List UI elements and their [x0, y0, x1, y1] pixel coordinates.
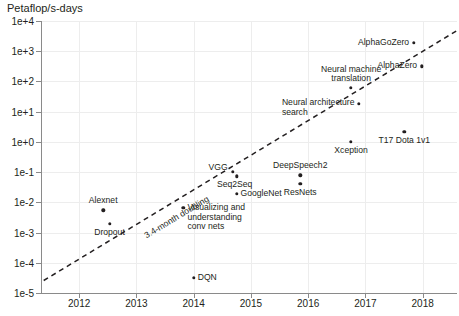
data-point [192, 276, 195, 279]
y-tick-mark [36, 293, 41, 294]
x-tick-label: 2015 [240, 298, 262, 309]
y-tick-mark [36, 112, 41, 113]
x-tick-label: 2014 [183, 298, 205, 309]
data-point [231, 170, 234, 173]
data-point-label: DQN [198, 273, 217, 283]
y-tick-mark [36, 233, 41, 234]
data-point [357, 102, 360, 105]
y-tick-label: 1e-3 [0, 227, 34, 238]
gridline-horizontal [42, 51, 457, 52]
y-tick-label: 1e+4 [0, 16, 34, 27]
data-point-label: Alexnet [89, 197, 118, 207]
data-point-label: Dropout [94, 228, 125, 238]
data-point [108, 222, 111, 225]
data-point [349, 86, 352, 89]
gridline-vertical [79, 21, 80, 293]
data-point-label: VGG [208, 163, 227, 173]
y-tick-label: 1e-4 [0, 257, 34, 268]
y-tick-label: 1e+1 [0, 106, 34, 117]
gridline-vertical [136, 21, 137, 293]
data-point [101, 208, 104, 211]
x-tick-label: 2013 [125, 298, 147, 309]
gridline-vertical [251, 21, 252, 293]
y-tick-mark [36, 202, 41, 203]
y-tick-label: 1e-2 [0, 197, 34, 208]
y-tick-mark [36, 142, 41, 143]
y-tick-label: 1e-5 [0, 288, 34, 299]
data-point [235, 175, 238, 178]
gridline-horizontal [42, 172, 457, 173]
y-tick-mark [36, 21, 41, 22]
data-point-label: GoogleNet [241, 189, 282, 199]
plot-area: AlphaGoZeroAlphaZeroNeural machine trans… [42, 21, 457, 293]
x-tick-label: 2017 [354, 298, 376, 309]
x-tick-label: 2016 [297, 298, 319, 309]
y-tick-mark [36, 172, 41, 173]
y-tick-mark [36, 81, 41, 82]
data-point-label: DeepSpeech2 [273, 162, 327, 172]
data-point-label: Xception [334, 146, 367, 156]
y-tick-mark [36, 51, 41, 52]
y-axis-title: Petaflop/s-days [7, 2, 83, 14]
y-tick-mark [36, 263, 41, 264]
compute-trend-chart: Petaflop/s-days AlphaGoZeroAlphaZeroNeur… [0, 0, 459, 316]
x-tick-label: 2018 [412, 298, 434, 309]
y-tick-label: 1e-1 [0, 167, 34, 178]
data-point [298, 182, 301, 185]
data-point-label: AlphaGoZero [358, 38, 409, 48]
y-tick-label: 1e+2 [0, 76, 34, 87]
data-point [349, 140, 352, 143]
data-point [412, 41, 415, 44]
y-axis-line [41, 21, 42, 294]
data-point-label: ResNets [284, 188, 317, 198]
data-point-label: Neural architecture search [282, 98, 355, 117]
gridline-vertical [423, 21, 424, 293]
gridline-horizontal [42, 81, 457, 82]
gridline-horizontal [42, 263, 457, 264]
data-point [298, 174, 301, 177]
y-tick-label: 1e+3 [0, 46, 34, 57]
gridline-horizontal [42, 112, 457, 113]
gridline-vertical [194, 21, 195, 293]
gridline-vertical [365, 21, 366, 293]
x-tick-label: 2012 [68, 298, 90, 309]
data-point-label: Neural machine translation [321, 65, 381, 84]
data-point [403, 130, 406, 133]
x-axis-line [41, 293, 457, 294]
gridline-vertical [308, 21, 309, 293]
data-point-label: T17 Dota 1v1 [379, 136, 431, 146]
gridline-horizontal [42, 21, 457, 22]
y-tick-label: 1e+0 [0, 136, 34, 147]
data-point [235, 192, 238, 195]
data-point-label: AlphaZero [377, 61, 417, 71]
